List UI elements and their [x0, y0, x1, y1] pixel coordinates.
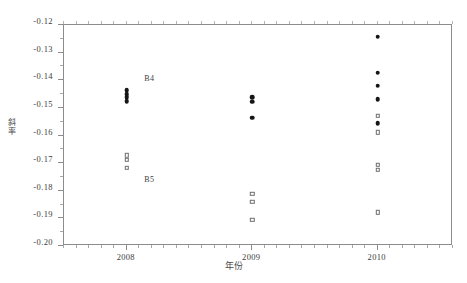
- x-axis-minor-tick-mark: [176, 245, 177, 248]
- y-axis-tick-label: -0.15: [33, 100, 53, 109]
- y-axis-tick-label: -0.13: [33, 45, 53, 54]
- data-point-b4: [375, 70, 380, 75]
- x-axis-tick-label: 2008: [106, 253, 146, 262]
- x-axis-minor-tick-mark: [314, 245, 315, 248]
- x-axis-minor-tick-mark: [427, 245, 428, 248]
- x-axis-minor-tick-mark: [76, 245, 77, 248]
- x-axis-tick-mark: [251, 245, 252, 250]
- y-axis-tick-label: -0.20: [33, 238, 53, 247]
- data-point-b4: [375, 83, 380, 88]
- data-point-b5: [376, 130, 380, 134]
- x-axis-minor-tick-mark: [226, 245, 227, 248]
- y-axis-tick-label: -0.17: [33, 155, 53, 164]
- scatter-chart: 斜率 年份 -0.12-0.13-0.14-0.15-0.16-0.17-0.1…: [0, 0, 467, 283]
- x-axis-minor-tick-mark: [389, 245, 390, 248]
- plot-area: B4B5: [63, 24, 452, 245]
- data-point-b4: [250, 100, 255, 105]
- annotation-b5: B5: [144, 176, 154, 184]
- data-point-b4: [124, 99, 129, 104]
- x-axis-tick-label: 2009: [231, 253, 271, 262]
- data-point-b4: [375, 35, 380, 40]
- data-point-b5: [376, 168, 380, 172]
- x-axis-minor-tick-mark: [402, 245, 403, 248]
- x-axis-minor-tick-mark: [276, 245, 277, 248]
- x-axis-minor-tick-mark: [352, 245, 353, 248]
- data-point-b4: [250, 115, 255, 120]
- x-axis-minor-tick-mark: [201, 245, 202, 248]
- x-axis-minor-tick-mark: [452, 245, 453, 248]
- x-axis-minor-tick-mark: [188, 245, 189, 248]
- y-axis-title: 斜率: [6, 118, 18, 136]
- x-axis-minor-tick-mark: [289, 245, 290, 248]
- y-axis-tick-label: -0.19: [33, 210, 53, 219]
- x-axis-minor-tick-mark: [214, 245, 215, 248]
- data-point-b5: [376, 113, 380, 117]
- x-axis-tick-mark: [126, 245, 127, 250]
- x-axis-tick-label: 2010: [357, 253, 397, 262]
- data-point-b5: [250, 218, 254, 222]
- y-axis-tick-label: -0.16: [33, 128, 53, 137]
- x-axis-tick-mark: [377, 245, 378, 250]
- x-axis-minor-tick-mark: [113, 245, 114, 248]
- x-axis-minor-tick-mark: [163, 245, 164, 248]
- x-axis-minor-tick-mark: [151, 245, 152, 248]
- data-point-b4: [375, 97, 380, 102]
- annotation-b4: B4: [144, 75, 154, 83]
- x-axis-minor-tick-mark: [138, 245, 139, 248]
- data-point-b5: [125, 166, 129, 170]
- x-axis-title: 年份: [0, 262, 467, 271]
- x-axis-minor-tick-mark: [364, 245, 365, 248]
- x-axis-minor-tick-mark: [339, 245, 340, 248]
- data-point-b5: [376, 162, 380, 166]
- x-axis-minor-tick-mark: [327, 245, 328, 248]
- y-axis-tick-label: -0.18: [33, 183, 53, 192]
- data-point-b5: [376, 210, 380, 214]
- x-axis-minor-tick-mark: [239, 245, 240, 248]
- x-axis-minor-tick-mark: [63, 245, 64, 248]
- data-point-b5: [250, 191, 254, 195]
- y-axis-tick-label: -0.12: [33, 17, 53, 26]
- data-point-b5: [125, 158, 129, 162]
- x-axis-minor-tick-mark: [439, 245, 440, 248]
- y-axis-tick-label: -0.14: [33, 72, 53, 81]
- data-point-b5: [250, 200, 254, 204]
- top-axis-minor-tick: [452, 21, 453, 24]
- x-axis-minor-tick-mark: [88, 245, 89, 248]
- x-axis-minor-tick-mark: [301, 245, 302, 248]
- x-axis-minor-tick-mark: [101, 245, 102, 248]
- x-axis-minor-tick-mark: [414, 245, 415, 248]
- data-point-b4: [375, 121, 380, 126]
- x-axis-minor-tick-mark: [264, 245, 265, 248]
